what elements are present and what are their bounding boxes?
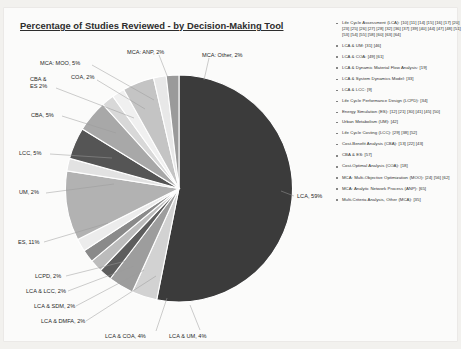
slice-label-lca-um: LCA & UM, 4% xyxy=(169,333,206,340)
slice-label-lca-coa: LCA & COA, 4% xyxy=(105,333,146,340)
legend-item: Life Cycle Assessment (LCA): [10] [11] [… xyxy=(336,20,462,37)
legend-item: LCA & COA: [49] [61] xyxy=(336,54,462,60)
legend-item: Life Cycle Performance Design (LCPD): [3… xyxy=(336,98,462,104)
legend-item-label: Life Cycle Costing (LCC): [29] [38] [52] xyxy=(342,130,417,136)
legend-bullet-icon xyxy=(336,188,338,190)
slice-label-lca-sdm: LCA & SDM, 2% xyxy=(34,303,75,310)
slice-label-um: UM, 2% xyxy=(19,189,39,196)
slice-label-lcpd: LCPD, 2% xyxy=(35,273,61,280)
slice-label-mca-anp: MCA: ANP, 2% xyxy=(127,49,164,56)
legend-bullet-icon xyxy=(336,56,338,58)
legend-item: Energy Simulation (ES): [12] [21] [30] [… xyxy=(336,109,462,115)
legend-item-label: LCA & Dynamic Material Flow Analysis: [1… xyxy=(342,65,427,71)
chart-title: Percentage of Studies Reviewed - by Deci… xyxy=(20,20,320,31)
legend-bullet-icon xyxy=(336,23,338,25)
legend-item-label: LCA & UM: [31] [46] xyxy=(342,43,381,49)
slice-label-mca-moo: MCA: MOO, 5% xyxy=(40,60,80,67)
legend-bullet-icon xyxy=(336,155,338,157)
legend-item-label: Urban Metabolism (UM): [42] xyxy=(342,119,398,125)
legend: Life Cycle Assessment (LCA): [10] [11] [… xyxy=(336,20,462,342)
slice-label-lca-dmfa: LCA & DMFA, 2% xyxy=(41,318,85,325)
slice-label-lca-lcc: LCA & LCC, 2% xyxy=(26,288,66,295)
legend-item-label: CBA & ES: [57] xyxy=(342,152,372,158)
pie-chart-svg xyxy=(65,69,293,308)
legend-item-label: LCA & System Dynamics Model: [33] xyxy=(342,76,413,82)
legend-bullet-icon xyxy=(336,199,338,201)
legend-item-label: Life Cycle Assessment (LCA): [10] [11] [… xyxy=(342,20,462,37)
legend-bullet-icon xyxy=(336,177,338,179)
legend-item-label: Cost-Benefit Analysis (CBA): [13] [22] [… xyxy=(342,141,423,147)
legend-item: Multi-Criteria Analysis, Other (MCA): [3… xyxy=(336,197,462,203)
legend-item-label: LCA & COA: [49] [61] xyxy=(342,54,384,60)
legend-bullet-icon xyxy=(336,133,338,135)
slice-label-es: ES, 11% xyxy=(18,239,39,246)
legend-item: LCA & LCC: [9] xyxy=(336,87,462,93)
legend-bullet-icon xyxy=(336,90,338,92)
legend-item: CBA & ES: [57] xyxy=(336,152,462,158)
legend-bullet-icon xyxy=(336,112,338,114)
legend-item: Urban Metabolism (UM): [42] xyxy=(336,119,462,125)
legend-item-label: LCA & LCC: [9] xyxy=(342,87,372,93)
legend-bullet-icon xyxy=(336,122,338,124)
legend-item: LCA & System Dynamics Model: [33] xyxy=(336,76,462,82)
legend-item: Cost-Optimal Analysis (COA): [18] xyxy=(336,163,462,169)
slice-label-cba: CBA, 5% xyxy=(31,112,54,119)
legend-item: Cost-Benefit Analysis (CBA): [13] [22] [… xyxy=(336,141,462,147)
legend-item-label: Multi-Criteria Analysis, Other (MCA): [3… xyxy=(342,197,421,203)
legend-item-label: Cost-Optimal Analysis (COA): [18] xyxy=(342,163,408,169)
legend-item: MCA: Multi-Objective Optimization (MOO):… xyxy=(336,175,462,181)
slice-label-coa: COA, 2% xyxy=(71,74,94,81)
legend-item-label: Life Cycle Performance Design (LCPD): [3… xyxy=(342,98,428,104)
legend-bullet-icon xyxy=(336,144,338,146)
legend-item-label: Energy Simulation (ES): [12] [21] [30] [… xyxy=(342,109,440,115)
slice-label-mca-other: MCA: Other, 2% xyxy=(202,52,243,59)
legend-bullet-icon xyxy=(336,45,338,47)
slice-label-cba-es: CBA & ES 2% xyxy=(30,76,54,90)
pie-chart xyxy=(65,69,293,308)
legend-item: LCA & Dynamic Material Flow Analysis: [1… xyxy=(336,65,462,71)
pie-slice-group xyxy=(65,75,292,302)
legend-item: MCA: Analytic Network Process (ANP): [65… xyxy=(336,186,462,192)
legend-item: LCA & UM: [31] [46] xyxy=(336,43,462,49)
legend-bullet-icon xyxy=(336,101,338,103)
slice-label-lcc: LCC, 5% xyxy=(19,150,41,157)
slice-label-lca: LCA, 59% xyxy=(297,193,322,200)
legend-item: Life Cycle Costing (LCC): [29] [38] [52] xyxy=(336,130,462,136)
chart-figure: Percentage of Studies Reviewed - by Deci… xyxy=(4,8,457,341)
legend-item-label: MCA: Analytic Network Process (ANP): [65… xyxy=(342,186,426,192)
legend-bullet-icon xyxy=(336,166,338,168)
legend-bullet-icon xyxy=(336,67,338,69)
legend-item-label: MCA: Multi-Objective Optimization (MOO):… xyxy=(342,175,450,181)
legend-bullet-icon xyxy=(336,79,338,81)
